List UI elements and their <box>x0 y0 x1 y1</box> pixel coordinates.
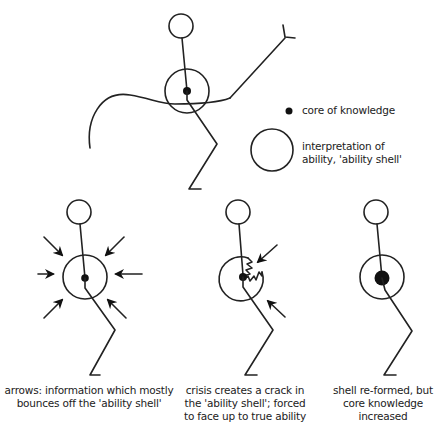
panel2-leg <box>243 277 273 375</box>
legend-core-dot-icon <box>286 108 293 115</box>
top-head <box>169 14 193 38</box>
legend-shell-label-line2: ability, 'ability shell' <box>302 153 402 166</box>
legend-core-label: core of knowledge <box>302 104 395 117</box>
arrow-icon <box>268 301 285 317</box>
panel2-spine <box>239 224 243 275</box>
legend <box>251 108 293 172</box>
panel-crisis-figure <box>219 200 285 375</box>
caption-crisis: crisis creates a crack in the 'ability s… <box>180 384 310 423</box>
arrow-icon <box>106 237 124 255</box>
panel1-head <box>67 200 91 224</box>
legend-shell-label: interpretation of ability, 'ability shel… <box>302 140 402 166</box>
panel-arrows-figure <box>38 200 142 375</box>
top-arm-curve <box>89 94 230 148</box>
caption-reformed: shell re-formed, but core knowledge incr… <box>328 384 438 423</box>
crisis-arrow-icon <box>258 245 277 262</box>
legend-shell-label-line1: interpretation of <box>302 140 402 153</box>
caption-crisis-line3: to face up to true ability <box>180 410 310 423</box>
top-standing-leg <box>187 91 217 189</box>
panel-reformed-figure <box>360 200 412 375</box>
arrow-icon <box>108 300 126 318</box>
top-neck-spine <box>182 38 187 91</box>
legend-shell-circle-icon <box>251 129 293 171</box>
ability-shell-diagram <box>0 0 446 444</box>
top-figure <box>89 14 295 189</box>
caption-arrows: arrows: information which mostly bounces… <box>4 384 174 410</box>
panel3-head <box>364 200 388 224</box>
caption-crisis-line1: crisis creates a crack in <box>180 384 310 397</box>
arrow-icon <box>44 300 62 318</box>
panel1-spine <box>80 224 85 278</box>
top-raised-leg <box>230 38 285 98</box>
caption-reformed-line1: shell re-formed, but <box>328 384 438 397</box>
panel3-spine <box>377 224 382 278</box>
caption-reformed-line2: core knowledge <box>328 397 438 410</box>
caption-arrows-line2: bounces off the 'ability shell' <box>4 397 174 410</box>
arrow-icon <box>44 237 62 255</box>
panel2-head <box>226 200 250 224</box>
top-raised-foot <box>283 25 295 38</box>
caption-crisis-line2: the 'ability shell'; forced <box>180 397 310 410</box>
caption-reformed-line3: increased <box>328 410 438 423</box>
caption-arrows-line1: arrows: information which mostly <box>4 384 174 397</box>
